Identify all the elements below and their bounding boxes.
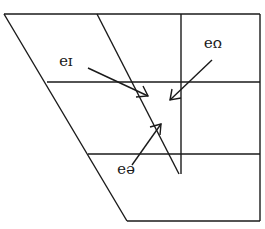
inner-slanted-line — [97, 14, 179, 174]
label-ua: ʊə — [204, 36, 222, 54]
label-ia: ɪə — [59, 54, 73, 72]
vowel-chart: ɪə ʊə eə — [0, 0, 265, 229]
label-ea: eə — [117, 162, 135, 180]
arrow-ua — [170, 60, 212, 100]
left-slanted-edge — [4, 14, 127, 221]
arrow-ea — [132, 124, 161, 165]
